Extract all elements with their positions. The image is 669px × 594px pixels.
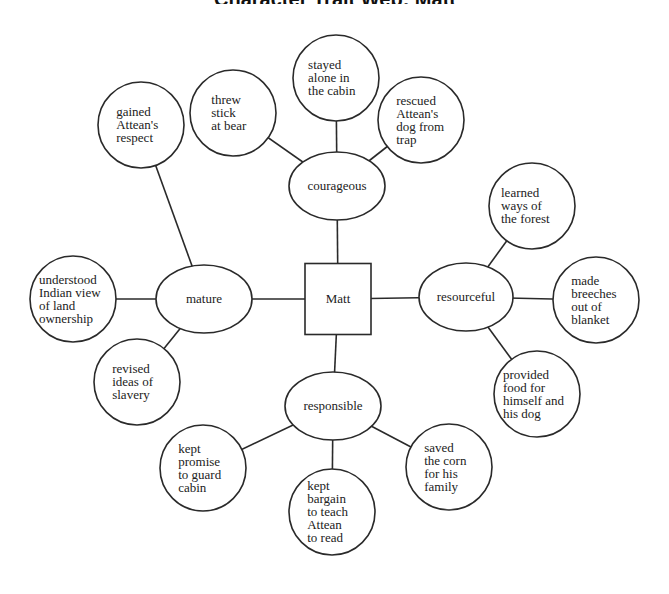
example-node: rescuedAttean'sdog fromtrap: [378, 77, 464, 163]
example-node: keptpromiseto guardcabin: [160, 425, 246, 511]
trait-node-courageous: courageous: [289, 152, 385, 220]
example-node: gainedAttean'srespect: [98, 82, 184, 168]
node-text-line: at bear: [211, 118, 247, 133]
node-text-line: trap: [396, 132, 416, 147]
example-node: madebreechesout ofblanket: [553, 257, 639, 343]
node-text-line: family: [424, 479, 458, 494]
node-text-line: the cabin: [308, 83, 356, 98]
example-node: stayedalone inthe cabin: [293, 35, 379, 121]
example-node: understoodIndian viewof landownership: [30, 256, 116, 342]
node-text-line: to read: [307, 530, 343, 545]
node-text-line: the forest: [501, 211, 550, 226]
character-trait-web: Mattcourageousthrewstickat bearstayedalo…: [0, 0, 669, 594]
node-text-line: cabin: [178, 480, 207, 495]
node-text-line: respect: [116, 130, 153, 145]
trait-label: responsible: [303, 398, 362, 413]
center-node-matt: Matt: [305, 264, 371, 335]
trait-node-resourceful: resourceful: [419, 263, 513, 331]
example-node: providedfood forhimself andhis dog: [494, 351, 580, 437]
example-node: threwstickat bear: [190, 70, 276, 156]
example-node: keptbargainto teachAtteanto read: [289, 469, 375, 555]
example-node: learnedways ofthe forest: [489, 163, 575, 249]
diagram-nodes: Mattcourageousthrewstickat bearstayedalo…: [30, 35, 639, 555]
example-node: revisedideas ofslavery: [94, 339, 180, 425]
node-text-line: slavery: [112, 387, 150, 402]
trait-label: courageous: [307, 178, 366, 193]
trait-label: resourceful: [437, 289, 496, 304]
node-text-line: blanket: [571, 312, 610, 327]
trait-label: mature: [186, 291, 222, 306]
node-text-line: his dog: [503, 406, 541, 421]
trait-node-mature: mature: [156, 265, 252, 333]
example-node: savedthe cornfor hisfamily: [406, 424, 492, 510]
trait-node-responsible: responsible: [285, 372, 381, 440]
center-label: Matt: [326, 291, 351, 306]
node-text-line: ownership: [39, 311, 93, 326]
